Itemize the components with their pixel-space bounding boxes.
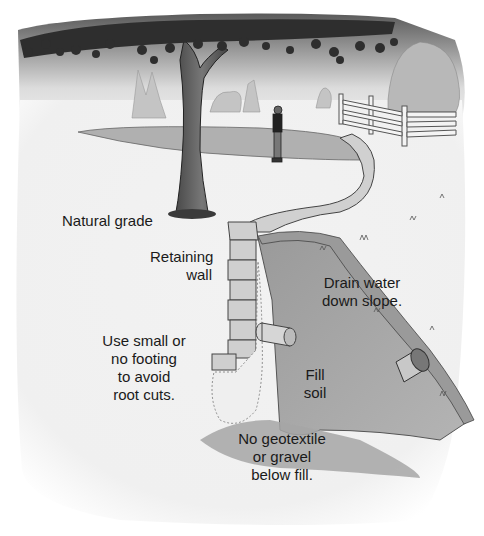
label-geotextile-line2: or gravel	[232, 448, 332, 466]
label-natural-grade: Natural grade	[62, 212, 153, 230]
label-retaining-wall-line2: wall	[150, 266, 212, 284]
label-retaining-wall: Retaining wall	[150, 248, 212, 284]
label-retaining-wall-line1: Retaining	[150, 248, 212, 266]
label-fill-soil-line1: Fill	[298, 366, 332, 384]
label-geotextile-line1: No geotextile	[232, 430, 332, 448]
tree-base-shadow	[168, 209, 216, 219]
label-footing: Use small or no footing to avoid root cu…	[96, 332, 192, 404]
label-fill-soil: Fill soil	[298, 366, 332, 402]
label-footing-line4: root cuts.	[96, 386, 192, 404]
label-drain-line1: Drain water	[322, 274, 402, 292]
label-drain-line2: down slope.	[322, 292, 402, 310]
label-fill-soil-line2: soil	[298, 384, 332, 402]
label-footing-line3: to avoid	[96, 368, 192, 386]
label-footing-line2: no footing	[96, 350, 192, 368]
label-geotextile: No geotextile or gravel below fill.	[232, 430, 332, 484]
label-footing-line1: Use small or	[96, 332, 192, 350]
label-drain: Drain water down slope.	[322, 274, 402, 310]
label-geotextile-line3: below fill.	[232, 466, 332, 484]
label-natural-grade-line: Natural grade	[62, 212, 153, 230]
